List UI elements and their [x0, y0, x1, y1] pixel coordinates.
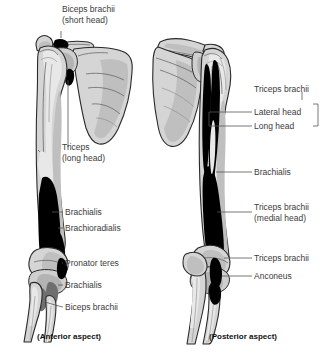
label-brachialis-lower: Brachialis [65, 280, 102, 291]
label-pronator-teres: Pronator teres [65, 258, 119, 269]
label-triceps-medial-head-line2: (medial head) [254, 213, 306, 223]
label-triceps-brachii-group: Triceps brachii [254, 84, 309, 95]
caption-posterior: (Posterior aspect) [209, 332, 277, 341]
label-triceps-long-head-line1: Triceps [62, 142, 90, 152]
label-triceps-brachii-distal: Triceps brachii [254, 253, 309, 264]
label-biceps-brachii: Biceps brachii [65, 302, 118, 313]
label-triceps-medial-head-line1: Triceps brachii [254, 202, 309, 212]
label-biceps-short-head: Biceps brachii (short head) [62, 4, 115, 26]
label-brachialis-upper: Brachialis [65, 207, 102, 218]
caption-anterior: (Anterior aspect) [37, 332, 101, 341]
label-biceps-short-head-line1: Biceps brachii [62, 4, 115, 14]
anatomy-figure: .bone{fill:#d5d5d5;stroke:#2a2a2a;stroke… [0, 0, 325, 357]
label-lateral-head: Lateral head [254, 107, 301, 118]
label-triceps-long-head: Triceps (long head) [62, 142, 105, 164]
label-long-head: Long head [254, 121, 294, 132]
label-triceps-long-head-line2: (long head) [62, 153, 105, 163]
label-anconeus: Anconeus [254, 271, 292, 282]
label-brachialis-posterior: Brachialis [254, 167, 291, 178]
label-brachioradialis: Brachioradialis [65, 223, 121, 234]
label-biceps-short-head-line2: (short head) [62, 15, 108, 25]
label-triceps-medial-head: Triceps brachii (medial head) [254, 202, 309, 224]
